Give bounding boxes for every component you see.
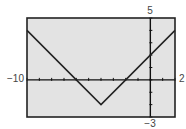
xmin-label: −10: [7, 73, 24, 84]
ymax-label: 5: [147, 5, 153, 16]
ymin-label: −3: [144, 118, 156, 129]
xmax-label: 2: [179, 73, 185, 84]
graph-window: −10 2 5 −3: [0, 0, 186, 129]
plot-area: [27, 18, 175, 117]
